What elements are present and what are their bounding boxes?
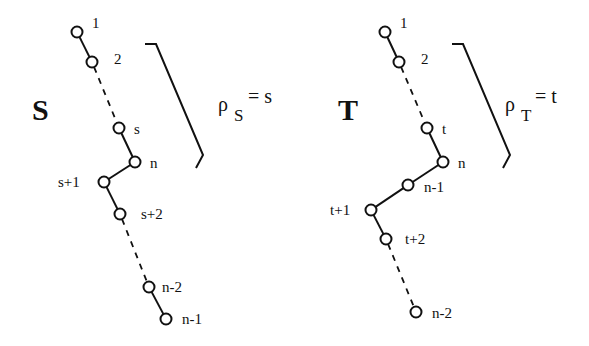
tree-t-bracket (452, 44, 510, 168)
vertex-label: n-1 (182, 311, 202, 327)
vertex-label: t+2 (405, 231, 425, 247)
rho-value: = t (535, 85, 557, 107)
vertex-n-1 (403, 180, 414, 191)
vertex-n (438, 157, 449, 168)
edge-2-t (401, 67, 425, 123)
vertex-2 (87, 57, 98, 68)
vertex-1 (72, 27, 83, 38)
tree-t-edges (374, 37, 441, 307)
vertex-label: 1 (400, 15, 408, 31)
vertex-n (130, 157, 141, 168)
vertex-label: 2 (421, 51, 429, 67)
vertex-n-2 (411, 307, 422, 318)
vertex-t+2 (381, 234, 392, 245)
tree-s-edges (79, 37, 163, 314)
edge-s+1-s+2 (106, 187, 117, 209)
edge-n-2-n-1 (152, 292, 164, 314)
edge-2-s (94, 67, 117, 123)
vertex-label: 1 (92, 15, 100, 31)
vertex-label: n-2 (432, 305, 452, 321)
tree-s: S 12sns+1s+2n-2n-1 ρ S = s (32, 15, 272, 327)
tree-s-bracket (145, 44, 203, 168)
vertex-label: s (134, 121, 140, 137)
edge-1-2 (387, 37, 396, 57)
edge-n-s+1 (109, 165, 131, 179)
edge-t+1-t+2 (374, 215, 384, 234)
rho-symbol: ρ (218, 93, 228, 116)
tree-s-nodes: 12sns+1s+2n-2n-1 (58, 15, 202, 327)
edge-t-n (429, 133, 440, 157)
vertex-t (422, 123, 433, 134)
diagram-canvas: S 12sns+1s+2n-2n-1 ρ S = s T 12tnn-1t+1t… (0, 0, 589, 346)
tree-s-rho-label: ρ S = s (218, 85, 272, 125)
vertex-label: s+1 (58, 174, 80, 190)
vertex-s+1 (99, 177, 110, 188)
tree-t-nodes: 12tnn-1t+1t+2n-2 (330, 15, 466, 321)
rho-symbol: ρ (505, 93, 515, 116)
tree-t-title: T (338, 93, 358, 126)
edge-t+2-n-2 (388, 244, 414, 307)
edge-n-1-t+1 (376, 188, 404, 207)
tree-s-title: S (32, 93, 49, 126)
vertex-n-2 (144, 282, 155, 293)
rho-subscript: T (521, 106, 532, 125)
vertex-label: n-2 (162, 279, 182, 295)
edge-s-n (121, 133, 132, 157)
vertex-label: t (442, 121, 447, 137)
vertex-s+2 (115, 209, 126, 220)
vertex-label: t+1 (330, 202, 350, 218)
vertex-t+1 (366, 205, 377, 216)
vertex-1 (380, 27, 391, 38)
rho-subscript: S (234, 106, 243, 125)
edge-1-2 (79, 37, 89, 57)
vertex-label: s+2 (141, 206, 163, 222)
vertex-label: n (150, 155, 158, 171)
vertex-s (114, 123, 125, 134)
edge-s+2-n-2 (122, 219, 147, 282)
vertex-2 (394, 57, 405, 68)
vertex-label: n-1 (424, 179, 444, 195)
rho-value: = s (248, 85, 272, 107)
tree-t: T 12tnn-1t+1t+2n-2 ρ T = t (330, 15, 557, 321)
tree-t-rho-label: ρ T = t (505, 85, 557, 125)
vertex-label: n (458, 155, 466, 171)
vertex-label: 2 (114, 51, 122, 67)
vertex-n-1 (161, 314, 172, 325)
